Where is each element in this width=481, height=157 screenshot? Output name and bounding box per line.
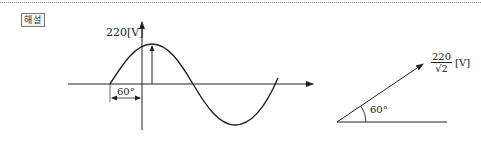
phasor-angle-label: 60° bbox=[370, 104, 388, 115]
waveform-axes bbox=[68, 22, 313, 130]
peak-voltage-label: 220[V] bbox=[106, 26, 144, 39]
diagram-canvas bbox=[0, 0, 481, 157]
magnitude-denominator: √2 bbox=[435, 63, 448, 74]
phase-angle-label: 60° bbox=[117, 86, 135, 97]
magnitude-unit: [V] bbox=[455, 57, 470, 68]
angle-arc bbox=[361, 106, 366, 122]
magnitude-numerator: 220 bbox=[431, 51, 452, 63]
phasor-magnitude-label: 220 √2 [V] bbox=[431, 51, 470, 74]
